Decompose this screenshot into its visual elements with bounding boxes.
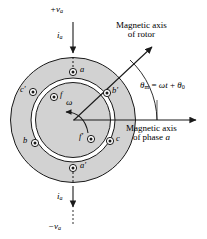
conductor-label-b: b bbox=[23, 136, 27, 145]
figure-canvas: +va ia ia −va Magnetic axis of rotor Mag… bbox=[0, 0, 207, 239]
conductor-marker-c bbox=[106, 137, 113, 144]
conductor-label-c-prime: c′ bbox=[20, 85, 26, 94]
theta-angle-label: θm = ωt + θ0 bbox=[140, 81, 185, 91]
conductor-marker-a-prime bbox=[69, 164, 76, 171]
conductor-marker-b-prime bbox=[103, 89, 110, 96]
conductor-marker-c-prime bbox=[29, 88, 36, 95]
rotor-axis-label: Magnetic axis of rotor bbox=[116, 21, 167, 40]
rotation-omega-label: ω bbox=[66, 98, 72, 107]
phase-a-axis-label: Magnetic axis of phase a bbox=[126, 124, 177, 143]
conductor-label-f-prime: f′ bbox=[79, 132, 83, 141]
conductor-label-b-prime: b′ bbox=[112, 86, 118, 95]
conductor-marker-f-prime bbox=[87, 135, 94, 142]
conductor-label-a: a bbox=[80, 65, 84, 74]
conductor-marker-a bbox=[69, 68, 76, 75]
machine-diagram-svg bbox=[0, 0, 207, 239]
bottom-voltage-label: −va bbox=[48, 222, 61, 232]
conductor-label-a-prime: a′ bbox=[80, 161, 86, 170]
top-voltage-label: +va bbox=[50, 5, 63, 15]
conductor-label-c: c bbox=[116, 134, 120, 143]
bottom-current-label: ia bbox=[57, 192, 63, 202]
top-current-label: ia bbox=[57, 31, 63, 41]
conductor-label-f: f bbox=[60, 90, 62, 99]
conductor-marker-b bbox=[31, 139, 38, 146]
conductor-marker-f bbox=[50, 93, 57, 100]
